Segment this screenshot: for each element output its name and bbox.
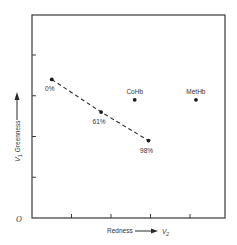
plot-frame [32, 15, 225, 218]
chart: 0%61%98%CoHbMetHb O Redness V2 V1Greenne… [0, 0, 237, 245]
data-point-marker [194, 98, 198, 102]
x-axis-var-sub: 2 [165, 231, 169, 237]
data-point-label: 0% [45, 85, 55, 92]
data-point-marker [99, 110, 103, 114]
data-point-label: 98% [140, 147, 153, 154]
x-axis-arrow-icon [151, 229, 158, 234]
data-point-marker [133, 98, 137, 102]
data-point-marker [147, 139, 151, 143]
y-axis-label: V1Greenness [13, 92, 23, 162]
y-axis-var-sub: 1 [17, 154, 23, 157]
data-points: 0%61%98%CoHbMetHb [45, 78, 206, 154]
svg-text:V1Greenness: V1Greenness [13, 120, 23, 162]
data-point-label: 61% [93, 118, 106, 125]
x-axis-title: Redness [107, 227, 133, 234]
y-axis-arrow-icon [15, 92, 20, 100]
data-point-marker [50, 78, 54, 82]
x-axis-label: Redness V2 [107, 227, 169, 237]
x-axis-ticks [72, 214, 191, 218]
data-point-label: MetHb [186, 88, 206, 95]
origin-label: O [16, 215, 22, 224]
data-point-label: CoHb [126, 88, 143, 95]
svg-text:V2: V2 [162, 228, 169, 237]
y-axis-title: Greenness [14, 120, 21, 153]
